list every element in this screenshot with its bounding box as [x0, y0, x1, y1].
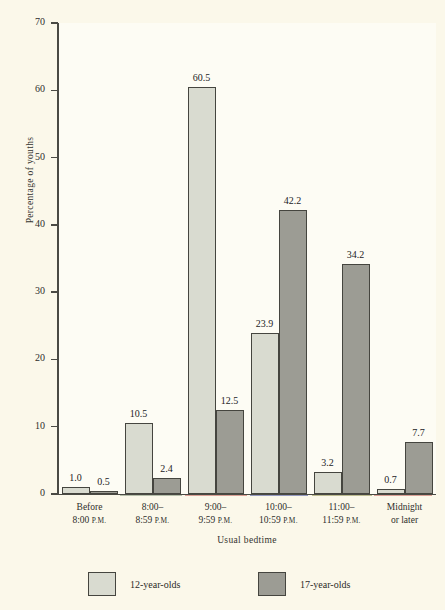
- bar-series-a: [314, 472, 342, 494]
- bar-value-label: 34.2: [336, 249, 376, 260]
- y-axis-tick: [51, 157, 58, 158]
- legend-swatch-icon-series-b: [258, 572, 286, 596]
- bar-series-b: [405, 442, 433, 494]
- chart-legend: 12-year-olds 17-year-olds: [58, 569, 436, 603]
- bar-value-label: 12.5: [210, 395, 250, 406]
- y-axis-tick-label: 0: [15, 487, 45, 498]
- legend-item-12-year-olds: 12-year-olds: [88, 569, 180, 599]
- bar-series-a: [62, 487, 90, 494]
- baseline-color-fringe: [120, 495, 182, 496]
- legend-item-17-year-olds: 17-year-olds: [258, 569, 350, 599]
- y-axis-tick-label: 10: [15, 420, 45, 431]
- bar-value-label: 42.2: [273, 195, 313, 206]
- bar-series-b: [153, 478, 181, 494]
- y-axis-tick: [51, 291, 58, 292]
- y-axis-tick-label: 50: [15, 151, 45, 162]
- plot-area: [58, 23, 436, 494]
- legend-swatch-icon-series-a: [88, 572, 116, 596]
- y-axis-tick: [51, 359, 58, 360]
- baseline-color-fringe: [374, 495, 432, 496]
- bar-value-label: 10.5: [119, 408, 159, 419]
- y-axis-tick: [51, 426, 58, 427]
- y-axis-tick-label: 60: [15, 83, 45, 94]
- x-axis-title: Usual bedtime: [58, 535, 436, 545]
- bar-series-b: [342, 264, 370, 494]
- y-axis-tick: [51, 22, 58, 23]
- y-axis-line: [57, 23, 59, 495]
- bar-series-b: [279, 210, 307, 494]
- bar-series-b: [90, 491, 118, 494]
- y-axis-tick: [51, 90, 58, 91]
- y-axis-tick-label: 70: [15, 16, 45, 27]
- baseline-color-fringe: [312, 495, 372, 496]
- x-axis-category-label: Midnightor later: [367, 501, 442, 526]
- bar-series-a: [251, 333, 279, 494]
- y-axis-tick-label: 30: [15, 285, 45, 296]
- y-axis-tick: [51, 224, 58, 225]
- y-axis-tick-label: 20: [15, 352, 45, 363]
- y-axis-tick-label: 40: [15, 218, 45, 229]
- legend-label-series-b: 17-year-olds: [300, 579, 350, 590]
- bar-series-b: [216, 410, 244, 494]
- bar-chart-figure: Percentage of youths 0102030405060701.00…: [0, 0, 445, 610]
- bar-series-a: [188, 87, 216, 494]
- bar-value-label: 7.7: [399, 427, 439, 438]
- legend-label-series-a: 12-year-olds: [130, 579, 180, 590]
- bar-value-label: 60.5: [182, 72, 222, 83]
- bar-series-a: [377, 489, 405, 494]
- baseline-color-fringe: [185, 495, 247, 496]
- baseline-color-fringe: [250, 495, 308, 496]
- bar-series-a: [125, 423, 153, 494]
- bar-value-label: 2.4: [147, 463, 187, 474]
- y-axis-tick: [51, 493, 58, 494]
- y-axis-title: Percentage of youths: [25, 80, 35, 280]
- bar-value-label: 0.5: [84, 476, 124, 487]
